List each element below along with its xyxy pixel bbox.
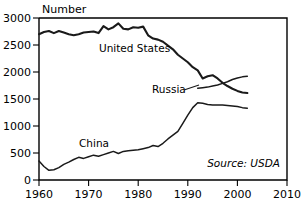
y-axis-tick-labels: 0 500 1000 1500 2000 2500 3000 <box>3 12 31 187</box>
x-tick-label-1980: 1980 <box>124 188 152 201</box>
x-axis-tick-labels: 1960 1970 1980 1990 2000 2010 <box>25 188 301 201</box>
y-axis-ticks <box>33 18 39 180</box>
x-tick-label-1960: 1960 <box>25 188 53 201</box>
line-chart: 0 500 1000 1500 2000 2500 3000 1960 1970… <box>0 0 305 206</box>
y-tick-label-3000: 3000 <box>3 12 31 25</box>
x-tick-label-2010: 2010 <box>273 188 301 201</box>
series-label-united-states: United States <box>99 42 170 54</box>
x-tick-label-1990: 1990 <box>174 188 202 201</box>
series-label-china: China <box>79 137 109 149</box>
series-line-united-states <box>39 23 247 93</box>
y-tick-label-2500: 2500 <box>3 39 31 52</box>
x-axis-ticks <box>39 180 287 186</box>
y-tick-label-1000: 1000 <box>3 120 31 133</box>
x-tick-label-2000: 2000 <box>223 188 251 201</box>
series-label-russia: Russia <box>152 83 186 95</box>
russia-leader-line <box>184 85 199 90</box>
x-tick-label-1970: 1970 <box>75 188 103 201</box>
y-tick-label-0: 0 <box>24 174 31 187</box>
source-annotation: Source: USDA <box>207 157 280 169</box>
y-tick-label-2000: 2000 <box>3 66 31 79</box>
y-tick-label-1500: 1500 <box>3 93 31 106</box>
chart-container: 0 500 1000 1500 2000 2500 3000 1960 1970… <box>0 0 305 206</box>
y-axis-title: Number <box>42 3 87 16</box>
y-tick-label-500: 500 <box>10 147 31 160</box>
